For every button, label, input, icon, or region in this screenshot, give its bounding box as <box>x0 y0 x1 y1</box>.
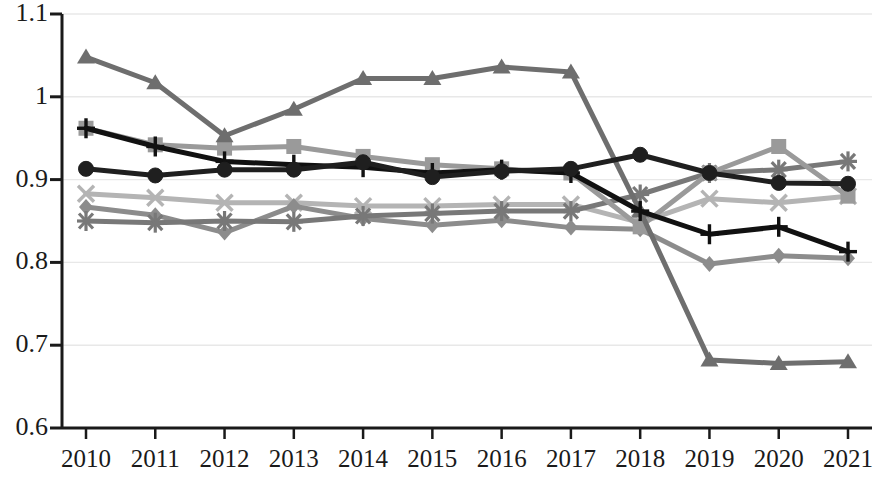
data-point-square <box>771 139 786 154</box>
data-point-circle <box>841 176 856 191</box>
x-axis-tick-label: 2021 <box>808 446 874 471</box>
data-point-square <box>286 139 301 154</box>
x-axis-tick-label: 2013 <box>254 446 334 471</box>
line-chart: 1.110.90.80.70.6 20102011201220132014201… <box>0 0 874 479</box>
y-axis-tick-label: 1.1 <box>16 0 49 26</box>
data-point-circle <box>633 147 648 162</box>
y-axis-ticks <box>50 14 62 428</box>
data-point-circle <box>494 164 509 179</box>
data-point-asterisk <box>839 151 857 171</box>
data-point-asterisk <box>285 212 303 232</box>
data-point-circle <box>286 162 301 177</box>
data-point-circle <box>356 155 371 170</box>
x-axis-tick-label: 2020 <box>739 446 819 471</box>
series-7-diamond <box>79 198 855 272</box>
series-3-plus <box>77 118 857 261</box>
data-point-asterisk <box>423 204 441 224</box>
data-point-circle <box>563 161 578 176</box>
chart-canvas <box>0 0 874 479</box>
x-axis-tick-label: 2014 <box>323 446 403 471</box>
data-point-diamond <box>564 220 578 236</box>
series-line <box>86 194 848 223</box>
data-point-asterisk <box>493 201 511 221</box>
data-point-asterisk <box>77 211 95 231</box>
data-point-circle <box>702 165 717 180</box>
data-point-diamond <box>702 256 716 272</box>
x-axis-tick-label: 2018 <box>600 446 680 471</box>
data-point-circle <box>425 170 440 185</box>
data-point-circle <box>148 168 163 183</box>
x-axis-tick-label: 2011 <box>115 446 195 471</box>
x-axis-tick-label: 2019 <box>669 446 749 471</box>
x-axis-tick-label: 2016 <box>462 446 542 471</box>
data-point-circle <box>79 161 94 176</box>
y-axis-tick-label: 1 <box>35 83 48 109</box>
x-axis-tick-label: 2017 <box>531 446 611 471</box>
data-point-circle <box>771 175 786 190</box>
data-point-plus <box>700 224 718 244</box>
data-point-asterisk <box>354 206 372 226</box>
x-axis-tick-label: 2010 <box>46 446 126 471</box>
x-axis-tick-label: 2015 <box>392 446 472 471</box>
y-axis-tick-label: 0.7 <box>16 331 49 357</box>
data-point-diamond <box>772 248 786 264</box>
data-point-asterisk <box>562 201 580 221</box>
data-point-triangle <box>77 49 95 64</box>
x-axis-tick-label: 2012 <box>185 446 265 471</box>
data-point-asterisk <box>216 211 234 231</box>
data-point-plus <box>770 217 788 237</box>
y-axis-tick-label: 0.8 <box>16 248 49 274</box>
y-axis-tick-label: 0.6 <box>16 414 49 440</box>
x-axis-ticks <box>86 428 848 439</box>
data-point-circle <box>217 162 232 177</box>
data-point-asterisk <box>146 213 164 233</box>
y-axis-tick-label: 0.9 <box>16 166 49 192</box>
